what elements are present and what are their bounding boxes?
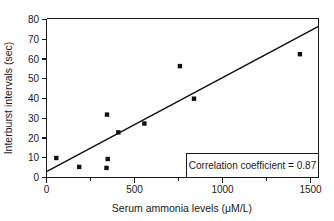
y-tick-label-60: 60 bbox=[28, 54, 40, 65]
data-points-group bbox=[54, 52, 302, 170]
data-point bbox=[178, 64, 182, 68]
x-tick-label-0: 0 bbox=[44, 184, 50, 195]
y-tick-label-30: 30 bbox=[28, 113, 40, 124]
y-axis-ticks bbox=[42, 20, 47, 178]
chart-canvas: 0 10 20 30 40 50 60 70 80 0 500 1000 150… bbox=[0, 0, 334, 221]
correlation-annotation: Correlation coefficient = 0.87 bbox=[187, 154, 319, 178]
data-point bbox=[298, 52, 302, 56]
y-tick-label-10: 10 bbox=[28, 152, 40, 163]
x-axis-tick-labels: 0 500 1000 1500 bbox=[44, 184, 322, 195]
data-point bbox=[104, 166, 108, 170]
data-point bbox=[54, 156, 58, 160]
annotation-text: Correlation coefficient = 0.87 bbox=[189, 160, 317, 171]
scatter-plot-figure: 0 10 20 30 40 50 60 70 80 0 500 1000 150… bbox=[0, 0, 334, 221]
y-tick-label-50: 50 bbox=[28, 73, 40, 84]
data-point bbox=[77, 165, 81, 169]
y-tick-label-40: 40 bbox=[28, 93, 40, 104]
regression-line bbox=[47, 26, 319, 171]
x-axis-ticks bbox=[47, 178, 311, 183]
y-axis-tick-labels: 0 10 20 30 40 50 60 70 80 bbox=[28, 14, 40, 183]
x-tick-label-500: 500 bbox=[126, 184, 143, 195]
data-point bbox=[116, 130, 120, 134]
x-tick-label-1500: 1500 bbox=[299, 184, 322, 195]
data-point bbox=[106, 157, 110, 161]
y-axis-title: Interburst intervals (sec) bbox=[2, 42, 14, 155]
x-axis-title: Serum ammonia levels (μM/L) bbox=[112, 202, 252, 214]
data-point bbox=[105, 112, 109, 116]
data-point bbox=[192, 97, 196, 101]
data-point bbox=[142, 121, 146, 125]
y-tick-label-20: 20 bbox=[28, 133, 40, 144]
y-tick-label-70: 70 bbox=[28, 34, 40, 45]
y-tick-label-0: 0 bbox=[33, 172, 39, 183]
x-tick-label-1000: 1000 bbox=[211, 184, 234, 195]
y-tick-label-80: 80 bbox=[28, 14, 40, 25]
